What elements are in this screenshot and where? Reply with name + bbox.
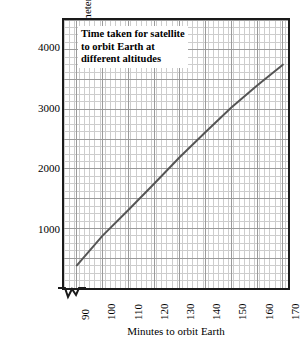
y-tick-label: 3000 — [26, 103, 60, 114]
chart-title: Time taken for satellite to orbit Earth … — [78, 26, 188, 68]
chart-figure: Altitude of satellite in kilometers 1000… — [0, 0, 308, 345]
y-axis-ticks: 1000200030004000 — [22, 18, 60, 290]
x-tick-label: 120 — [158, 304, 170, 321]
x-tick-label: 140 — [210, 304, 222, 321]
x-tick-label: 150 — [236, 304, 248, 321]
x-tick-label: 130 — [184, 304, 196, 321]
chart-title-line-3: different altitudes — [81, 53, 185, 66]
y-tick-label: 2000 — [26, 163, 60, 174]
chart-title-line-2: to orbit Earth at — [81, 41, 185, 54]
x-tick-label: 90 — [79, 309, 91, 320]
y-tick-label: 4000 — [26, 42, 60, 53]
x-tick-label: 100 — [105, 304, 117, 321]
x-tick-label: 160 — [263, 304, 275, 321]
chart-title-line-1: Time taken for satellite — [81, 28, 185, 41]
x-tick-label: 170 — [289, 304, 301, 321]
x-axis-title: Minutes to orbit Earth — [62, 325, 290, 337]
plot-area: Time taken for satellite to orbit Earth … — [62, 18, 290, 290]
y-tick-label: 1000 — [26, 224, 60, 235]
x-tick-label: 110 — [132, 304, 144, 320]
